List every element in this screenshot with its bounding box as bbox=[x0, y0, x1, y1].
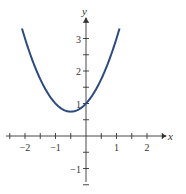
function-graph: −2−112321−1 x y bbox=[0, 0, 186, 194]
x-tick-label: −1 bbox=[50, 142, 61, 153]
x-tick-label: 2 bbox=[145, 142, 150, 153]
y-axis-label: y bbox=[81, 5, 87, 17]
x-tick-label: −2 bbox=[20, 142, 31, 153]
x-axis-label: x bbox=[167, 130, 173, 142]
x-tick-label: 1 bbox=[114, 142, 119, 153]
y-tick-label: −1 bbox=[70, 164, 81, 175]
parabola-curve bbox=[22, 28, 120, 111]
y-tick-label: 2 bbox=[76, 66, 81, 77]
y-tick-label: 3 bbox=[76, 34, 81, 45]
